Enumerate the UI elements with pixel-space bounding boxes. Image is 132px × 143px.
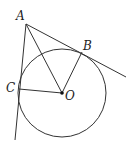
tangent-line-ac — [15, 24, 26, 140]
segment-oc — [19, 89, 62, 93]
tangent-line-ab — [26, 24, 126, 77]
geometry-figure: A B C O — [0, 0, 132, 143]
center-point-o — [60, 91, 64, 95]
label-b: B — [82, 39, 92, 53]
label-a: A — [15, 9, 25, 23]
diagram-canvas: A B C O — [0, 0, 132, 143]
segment-ao — [26, 24, 62, 93]
label-c: C — [6, 81, 15, 95]
segment-ob — [62, 52, 82, 93]
label-o: O — [65, 89, 75, 103]
